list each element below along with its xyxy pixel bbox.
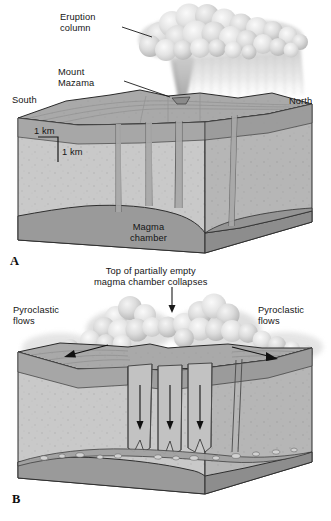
label-south: South (12, 95, 37, 106)
label-pyroclastic-flows-left: Pyroclastic flows (13, 305, 59, 326)
eruption-cloud (138, 4, 308, 62)
label-north: North (289, 96, 312, 107)
figure-root: Eruption column Mount Mazama South North… (0, 0, 331, 521)
panel-a (18, 4, 312, 254)
label-pyroclastic-flows-right: Pyroclastic flows (258, 305, 304, 326)
label-mount-mazama: Mount Mazama (58, 67, 94, 88)
label-scale-horizontal: 1 km (34, 126, 55, 137)
collapse-pointer-arrow (169, 287, 176, 313)
label-eruption-column: Eruption column (60, 12, 95, 33)
panel-letter-b: B (12, 492, 20, 507)
cloud-puffs (139, 4, 308, 62)
label-collapse-note: Top of partially empty magma chamber col… (94, 266, 207, 287)
label-scale-vertical: 1 km (62, 147, 83, 158)
label-magma-chamber: Magma chamber (130, 222, 167, 243)
geologic-diagram-svg (0, 0, 331, 521)
panel-letter-a: A (10, 254, 19, 269)
